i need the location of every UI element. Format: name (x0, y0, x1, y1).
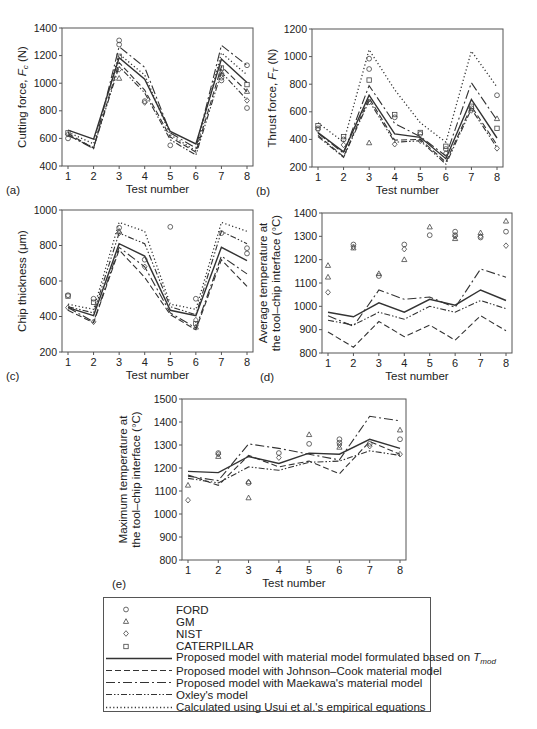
ford-marker (504, 229, 509, 234)
x-tick-label: 2 (341, 171, 347, 183)
y-tick-label: 1000 (284, 50, 308, 62)
x-tick-label: 2 (215, 564, 221, 576)
ford-marker (168, 224, 173, 229)
y-axis-label: Cutting force, Fc (N) (16, 46, 30, 148)
x-tick-label: 5 (417, 171, 423, 183)
dash-dot-dot-line-icon (104, 688, 176, 701)
x-tick-label: 3 (116, 170, 122, 182)
legend-item-tmod: Proposed model with material model formu… (104, 652, 496, 665)
series-maekawa (328, 269, 506, 326)
y-tick-label: 400 (39, 310, 57, 322)
x-tick-label: 3 (246, 564, 252, 576)
y-tick-label: 1000 (34, 77, 58, 89)
ford-marker (245, 63, 250, 68)
y-tick-label: 1100 (294, 277, 317, 289)
x-tick-label: 8 (494, 171, 500, 183)
nist-marker (124, 631, 129, 637)
x-tick-label: 5 (427, 357, 433, 369)
ford-marker (367, 56, 372, 61)
ford-marker (392, 115, 397, 120)
plot-frame (312, 29, 503, 167)
x-tick-label: 4 (392, 171, 398, 183)
y-tick-label: 1400 (294, 207, 318, 219)
y-tick-label: 400 (289, 133, 307, 145)
series-maekawa (318, 83, 497, 156)
caterpillar-marker (245, 82, 249, 86)
legend-item-oxley: Oxley's model (104, 688, 248, 701)
nist-marker (245, 98, 250, 104)
legend-label: NIST (176, 628, 202, 640)
x-tick-label: 7 (218, 170, 224, 182)
x-tick-label: 4 (142, 356, 148, 368)
ford-marker (193, 296, 198, 301)
panel-label: (e) (112, 578, 126, 590)
x-axis-label: Test number (126, 183, 189, 195)
x-tick-label: 1 (325, 357, 331, 369)
triangle-marker-icon (104, 615, 176, 628)
y-axis-label: Maximum temperature at (117, 415, 129, 544)
series-jc (188, 442, 400, 486)
legend: FORDGMNISTCATERPILLARProposed model with… (103, 597, 431, 712)
x-tick-label: 6 (336, 564, 342, 576)
y-tick-label: 1200 (34, 49, 58, 61)
y-tick-label: 1200 (284, 23, 308, 35)
series-oxley (328, 301, 506, 326)
x-tick-label: 2 (91, 170, 97, 182)
gm-marker (503, 218, 508, 223)
series-usui (318, 50, 497, 143)
nist-marker (326, 290, 331, 296)
dotted-line-icon (104, 701, 176, 714)
x-tick-label: 7 (478, 357, 484, 369)
x-tick-label: 5 (167, 170, 173, 182)
legend-label: FORD (176, 604, 209, 616)
x-tick-label: 5 (167, 356, 173, 368)
x-tick-label: 4 (142, 170, 148, 182)
legend-label: GM (176, 616, 195, 628)
legend-item-usui: Calculated using Usui et al.'s empirical… (104, 701, 426, 714)
legend-item-gm: GM (104, 615, 195, 628)
y-axis-label-line2: the tool–chip interface (°C) (130, 411, 142, 547)
x-tick-label: 7 (218, 356, 224, 368)
y-tick-label: 1400 (34, 22, 58, 34)
x-tick-label: 3 (376, 357, 382, 369)
legend-item-ford: FORD (104, 603, 209, 616)
x-tick-label: 5 (306, 564, 312, 576)
x-tick-label: 6 (193, 356, 199, 368)
solid-line-icon (104, 652, 176, 665)
y-tick-label: 200 (289, 161, 307, 173)
y-tick-label: 600 (39, 275, 57, 287)
caterpillar-marker (124, 644, 128, 648)
gm-marker (325, 263, 330, 268)
legend-label: Calculated using Usui et al.'s empirical… (176, 701, 426, 713)
gm-marker (367, 140, 372, 145)
panel-b: 2004006008001000120012345678Test number(… (256, 23, 503, 198)
legend-label: Oxley's model (176, 689, 248, 701)
x-tick-label: 1 (185, 564, 191, 576)
ford-marker (427, 233, 432, 238)
ford-marker (367, 67, 372, 72)
y-tick-label: 800 (299, 347, 317, 359)
square-marker-icon (104, 640, 176, 653)
series-jc (328, 316, 506, 348)
nist-marker (186, 497, 191, 503)
legend-item-nist: NIST (104, 627, 202, 640)
y-tick-label: 400 (39, 160, 57, 172)
plot-frame (322, 213, 512, 353)
x-tick-label: 4 (401, 357, 407, 369)
y-tick-label: 1000 (154, 508, 178, 520)
legend-label: Proposed model with Maekawa's material m… (176, 677, 422, 689)
gm-marker (427, 224, 432, 229)
y-tick-label: 800 (39, 239, 57, 251)
x-tick-label: 7 (367, 564, 373, 576)
gm-marker (185, 482, 190, 487)
plot-frame (62, 210, 253, 352)
x-tick-label: 1 (65, 356, 71, 368)
x-tick-label: 8 (397, 564, 403, 576)
ford-marker (124, 607, 129, 612)
y-tick-label: 900 (299, 323, 317, 335)
y-tick-label: 1300 (154, 439, 178, 451)
y-axis-label: Thrust force, FT (N) (266, 48, 280, 147)
y-tick-label: 1000 (294, 300, 318, 312)
x-tick-label: 6 (193, 170, 199, 182)
x-axis-label: Test number (376, 184, 439, 196)
